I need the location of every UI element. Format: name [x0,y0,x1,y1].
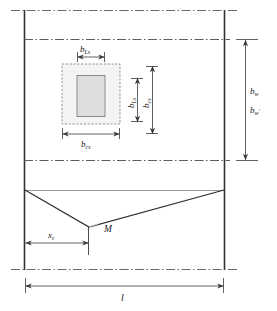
label-b-w: bw [250,86,259,97]
label-b-Ls-vertical: bLs [126,97,137,108]
dimension-span-l [26,278,224,293]
dimension-b-w-vertical [236,40,258,161]
label-b-cs-horizontal: bcs [81,139,91,150]
dimension-b-cs-horizontal [63,128,120,139]
dimension-b-Ls-horizontal [78,52,105,62]
structural-diagram-figure: bLs bcs bLs bcs bw bw' [0,0,277,311]
column-cross-section [77,76,105,117]
label-b-Ls-horizontal: bLs [80,44,91,55]
label-b-w-prime: bw' [250,105,261,116]
label-moment-M: M [103,224,113,234]
label-b-cs-vertical: bcs [141,98,152,108]
label-span-l: l [121,292,124,303]
diagram-canvas: bLs bcs bLs bcs bw bw' [0,0,277,311]
moment-diagram [25,190,224,227]
label-x-c: xc [47,230,55,241]
dimension-x-c [26,227,89,255]
